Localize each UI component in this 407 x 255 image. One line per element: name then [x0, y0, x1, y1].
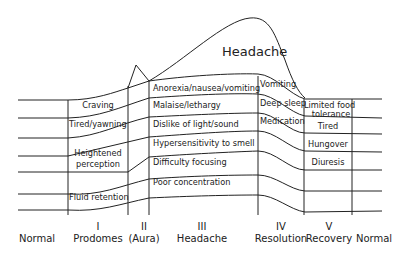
symptom-anorexia: Anorexia/nausea/vomiting [153, 84, 260, 93]
phase-resolution: IV Resolution [252, 221, 310, 245]
phase-numeral: V [304, 221, 354, 233]
phase-normal-start: Normal [14, 221, 60, 245]
phase-headache: III Headache [172, 221, 232, 245]
symptom-difficulty-focusing: Difficulty focusing [153, 158, 227, 167]
phase-numeral: IV [252, 221, 310, 233]
phase-label: Resolution [252, 233, 310, 245]
phase-recovery: V Recovery [304, 221, 354, 245]
symptom-deep-sleep: Deep sleep [260, 99, 306, 108]
phase-label: Prodomes [72, 233, 124, 245]
symptom-hypersensitivity-smell: Hypersensitivity to smell [153, 139, 255, 148]
phase-label: Headache [172, 233, 232, 245]
symptom-recovery-tired: Tired [304, 122, 352, 131]
phase-label: Recovery [304, 233, 354, 245]
phase-aura: II (Aura) [124, 221, 164, 245]
phase-numeral [354, 221, 394, 233]
phase-numeral: I [72, 221, 124, 233]
phase-label: Normal [354, 233, 394, 245]
phase-normal-end: Normal [354, 221, 394, 245]
symptom-medication: Medication [260, 117, 305, 126]
phase-numeral: III [172, 221, 232, 233]
symptom-poor-concentration: Poor concentration [153, 178, 230, 187]
phase-label: (Aura) [124, 233, 164, 245]
symptom-malaise: Malaise/lethargy [153, 101, 221, 110]
symptom-diuresis: Diuresis [304, 158, 352, 167]
symptom-hungover: Hungover [304, 140, 352, 149]
phase-prodromes: I Prodomes [72, 221, 124, 245]
phase-label: Normal [14, 233, 60, 245]
symptom-tolerance: tolerance [306, 110, 356, 119]
migraine-phases-diagram: Headache Craving Tired/yawning Heightene… [0, 0, 407, 255]
headache-curve-label: Headache [222, 44, 287, 59]
symptom-vomiting: Vomiting [260, 80, 296, 89]
phase-numeral [14, 221, 60, 233]
symptom-fluid-retention: Fluid retention [69, 193, 129, 202]
symptom-craving: Craving [68, 101, 128, 110]
symptom-perception: perception [68, 160, 128, 169]
symptom-tired-yawning: Tired/yawning [69, 120, 127, 129]
symptom-dislike-light-sound: Dislike of light/sound [153, 120, 239, 129]
phase-numeral: II [124, 221, 164, 233]
symptom-heightened: Heightened [68, 149, 128, 158]
